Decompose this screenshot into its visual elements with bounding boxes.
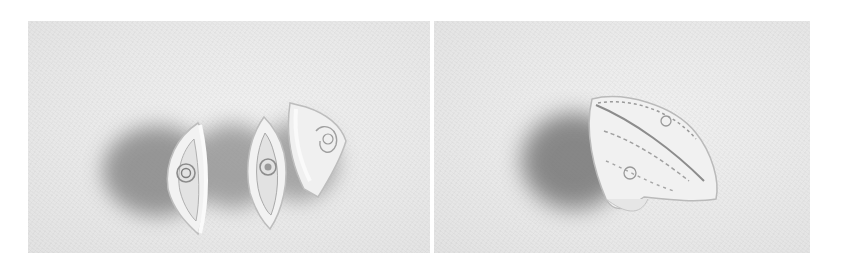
quilling-pieces-separate — [28, 21, 430, 253]
photo-panel-left — [28, 21, 430, 253]
photo-panel-right — [434, 21, 810, 253]
quilling-piece-assembled — [434, 21, 810, 253]
assembled-quilled-shape — [589, 97, 717, 211]
